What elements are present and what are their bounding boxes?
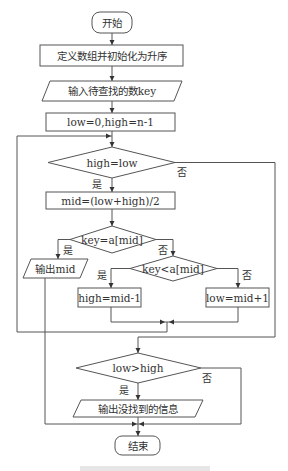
arrow-down-icon: [110, 40, 115, 45]
arrow-right-icon: [160, 320, 165, 325]
key-less-label: key<a[mid]: [142, 263, 204, 275]
branch-yes-label: 是: [119, 385, 129, 396]
arrow-left-icon: [139, 422, 144, 427]
connector: [111, 269, 130, 289]
io-input-key: 输入待查找的数key: [42, 81, 182, 101]
arrow-right-icon: [106, 134, 111, 139]
branch-no-label: 否: [202, 373, 212, 384]
arrow-down-icon: [109, 283, 114, 288]
flowchart-canvas: 开始 定义数组并初始化为升序 输入待查找的数key low=0,high=n-1…: [0, 0, 288, 471]
decision-loop-condition: high=low: [48, 147, 175, 178]
arrow-right-icon: [132, 422, 137, 427]
process-set-low: low=mid+1: [206, 288, 269, 307]
key-equal-label: key=a[mid]: [81, 234, 143, 246]
process-init-bounds: low=0,high=n-1: [46, 113, 175, 131]
figure-caption: [80, 466, 210, 471]
decision-key-less: key<a[mid]: [130, 256, 217, 281]
define-array-label: 定义数组并初始化为升序: [57, 50, 167, 62]
end-label: 结束: [128, 440, 149, 452]
arrow-down-icon: [110, 142, 115, 147]
arrow-down-icon: [136, 348, 141, 353]
process-compute-mid: mid=(low+high)/2: [46, 192, 175, 209]
branch-no-label: 否: [158, 245, 168, 256]
input-key-label: 输入待查找的数key: [68, 85, 157, 97]
process-define-array: 定义数组并初始化为升序: [40, 45, 183, 66]
connector: [167, 307, 238, 322]
start-label: 开始: [102, 17, 123, 29]
arrow-down-icon: [110, 187, 115, 192]
loop-condition-label: high=low: [86, 157, 137, 169]
branch-no-label: 否: [242, 270, 252, 281]
branch-yes-label: 是: [92, 179, 102, 190]
arrow-down-icon: [110, 76, 115, 81]
end-terminal: 结束: [115, 436, 160, 455]
branch-no-label: 否: [177, 167, 187, 178]
init-bounds-label: low=0,high=n-1: [67, 116, 154, 128]
arrow-down-icon: [236, 283, 241, 288]
output-mid-label: 输出mid: [35, 263, 75, 275]
start-terminal: 开始: [92, 12, 132, 33]
io-output-not-found: 输出没找到的信息: [73, 400, 203, 417]
arrow-down-icon: [136, 395, 141, 400]
loop-exit-connector: [138, 163, 275, 354]
connector: [217, 269, 238, 289]
arrow-down-icon: [171, 251, 176, 256]
not-found-condition-label: low>high: [112, 362, 163, 374]
branch-yes-label: 是: [97, 270, 107, 281]
compute-mid-label: mid=(low+high)/2: [61, 195, 159, 207]
set-high-label: high=mid-1: [78, 292, 141, 304]
process-set-high: high=mid-1: [78, 288, 141, 307]
branch-yes-label: 是: [63, 245, 73, 256]
decision-key-equal: key=a[mid]: [70, 226, 156, 253]
set-low-label: low=mid+1: [206, 292, 269, 304]
arrow-down-icon: [136, 431, 141, 436]
decision-not-found: low>high: [76, 353, 201, 383]
io-output-mid: 输出mid: [23, 259, 88, 278]
connector: [111, 307, 167, 322]
arrow-left-icon: [169, 320, 174, 325]
arrow-down-icon: [110, 108, 115, 113]
arrow-down-icon: [56, 254, 61, 259]
output-not-found-label: 输出没找到的信息: [98, 403, 178, 415]
arrow-down-icon: [110, 221, 115, 226]
